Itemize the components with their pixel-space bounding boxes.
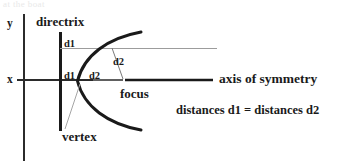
vertex-label: vertex	[62, 130, 97, 143]
focus-label: focus	[120, 87, 149, 100]
parabola-diagram: at the boat y x directrix d1 d1 d2 d2 fo…	[0, 0, 339, 166]
d2-upper-label: d2	[113, 57, 124, 68]
x-axis-label: x	[7, 74, 13, 86]
distances-equality-note: distances d1 = distances d2	[176, 104, 319, 117]
axis-of-symmetry-label: axis of symmetry	[219, 72, 317, 86]
d2-lower-label: d2	[89, 71, 100, 82]
y-axis-label: y	[7, 18, 13, 30]
d1-upper-label: d1	[64, 39, 75, 50]
d1-lower-label: d1	[64, 71, 75, 82]
directrix-label: directrix	[36, 15, 84, 28]
vertex-leader-line	[65, 84, 80, 129]
